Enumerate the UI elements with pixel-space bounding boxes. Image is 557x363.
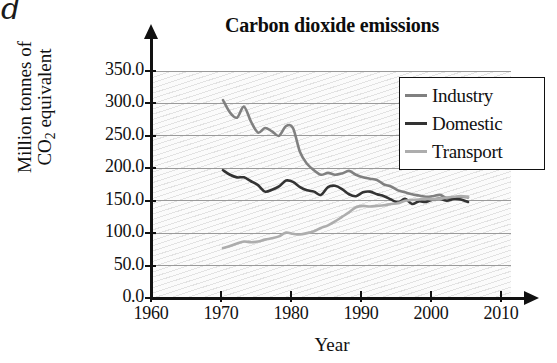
legend-line-swatch-icon	[405, 150, 427, 153]
y-tick-mark	[145, 265, 156, 267]
x-axis-line	[150, 297, 525, 300]
legend-entry-industry[interactable]: Industry	[405, 81, 539, 109]
x-tick-label: 2000	[396, 303, 466, 324]
x-tick-label: 1960	[116, 303, 186, 324]
x-tick-mark	[150, 291, 152, 302]
y-tick-mark	[145, 232, 156, 234]
y-tick-label: 150.0	[64, 189, 144, 210]
series-line-transport	[223, 196, 468, 248]
x-tick-mark	[290, 291, 292, 302]
y-axis-arrow-icon	[144, 24, 158, 39]
x-tick-label: 1980	[256, 303, 326, 324]
y-tick-label: 350.0	[64, 59, 144, 80]
x-tick-mark	[220, 291, 222, 302]
chart-canvas: 0.050.0100.0150.0200.0250.0300.0350.0 19…	[0, 0, 557, 363]
y-tick-label: 250.0	[64, 124, 144, 145]
y-tick-label: 50.0	[64, 254, 144, 275]
y-tick-mark	[145, 200, 156, 202]
y-tick-label: 300.0	[64, 91, 144, 112]
y-tick-mark	[145, 102, 156, 104]
x-tick-mark	[430, 291, 432, 302]
x-tick-label: 1970	[186, 303, 256, 324]
legend-entry-transport[interactable]: Transport	[405, 137, 539, 165]
y-tick-label: 100.0	[64, 221, 144, 242]
legend-line-swatch-icon	[405, 122, 427, 125]
chart-legend: IndustryDomesticTransport	[399, 77, 545, 170]
x-tick-mark	[360, 291, 362, 302]
y-tick-mark	[145, 167, 156, 169]
x-tick-mark	[500, 291, 502, 302]
y-tick-mark	[145, 70, 156, 72]
legend-label: Transport	[432, 142, 503, 161]
legend-label: Domestic	[432, 114, 502, 133]
legend-entry-domestic[interactable]: Domestic	[405, 109, 539, 137]
x-tick-label: 2010	[466, 303, 536, 324]
x-tick-label: 1990	[326, 303, 396, 324]
y-tick-label: 200.0	[64, 156, 144, 177]
legend-line-swatch-icon	[405, 94, 427, 97]
legend-label: Industry	[432, 86, 493, 105]
y-tick-mark	[145, 135, 156, 137]
